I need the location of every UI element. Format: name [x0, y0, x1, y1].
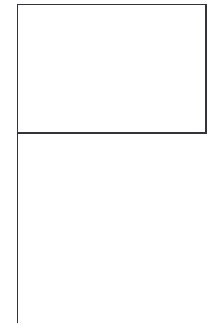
- flag-illustration: [0, 0, 216, 330]
- drawing-canvas: Outline of a blank rectangular flag on a…: [0, 0, 216, 330]
- flag-banner-shape: [18, 5, 207, 134]
